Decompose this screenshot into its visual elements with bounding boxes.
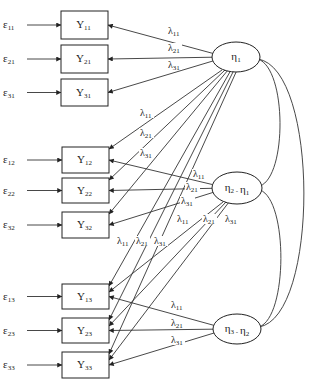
error-11: ε11 (3, 18, 61, 32)
error-32: ε32 (3, 218, 62, 232)
observed-y31: Y31 (61, 79, 108, 106)
error-31: ε31 (3, 86, 61, 100)
error-label: ε33 (3, 358, 15, 372)
error-terms: ε11ε21ε31ε12ε22ε32ε13ε23ε33 (3, 18, 62, 372)
loading-path (109, 297, 214, 326)
error-21: ε21 (3, 52, 61, 66)
covariance-arcs (258, 59, 304, 327)
loading-path (109, 70, 225, 180)
loading-path (109, 70, 237, 354)
loading-path (109, 333, 214, 365)
observed-y23: Y23 (62, 318, 109, 343)
loading-path (109, 70, 231, 286)
error-label: ε32 (3, 218, 15, 232)
latent-eta1: η1 (212, 42, 260, 72)
error-label: ε21 (3, 52, 15, 66)
observed-y12: Y12 (62, 147, 109, 173)
error-12: ε12 (3, 153, 62, 167)
latent-eta2-eta1: η2 - η1 (212, 172, 262, 204)
error-label: ε12 (3, 153, 15, 167)
observed-y33: Y33 (62, 352, 109, 378)
loading-path (109, 192, 213, 225)
error-label: ε13 (3, 290, 15, 304)
error-label: ε31 (3, 86, 15, 100)
covariance-arc (258, 59, 280, 186)
observed-variables: Y11Y21Y31Y12Y22Y32Y13Y23Y33 (61, 11, 109, 378)
latent-factors: η1η2 - η1η3 - η2 (212, 42, 262, 344)
error-label: ε11 (3, 18, 15, 32)
observed-y22: Y22 (62, 178, 109, 203)
latent-eta3-eta2: η3 - η2 (213, 314, 261, 344)
path-diagram: ε11ε21ε31ε12ε22ε32ε13ε23ε33 Y11Y21Y31Y12… (0, 0, 327, 389)
observed-y11: Y11 (61, 11, 108, 39)
error-33: ε33 (3, 358, 62, 372)
observed-y13: Y13 (62, 284, 109, 309)
covariance-arc (259, 190, 281, 327)
loading-path (109, 70, 228, 214)
error-label: ε22 (3, 184, 15, 198)
error-13: ε13 (3, 290, 62, 304)
loading-path (108, 25, 213, 53)
error-23: ε23 (3, 324, 62, 338)
loading-path (109, 70, 222, 149)
observed-y21: Y21 (61, 45, 108, 73)
loading-path (108, 57, 212, 59)
error-label: ε23 (3, 324, 15, 338)
loading-path (109, 329, 213, 330)
observed-y32: Y32 (62, 212, 109, 238)
error-22: ε22 (3, 184, 62, 198)
